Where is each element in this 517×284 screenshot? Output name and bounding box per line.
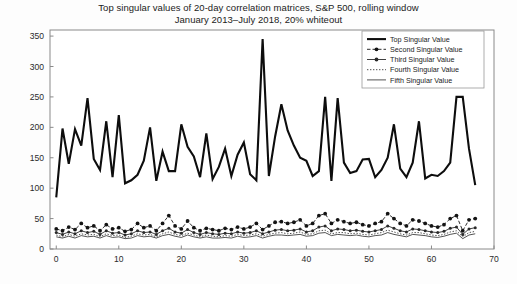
series-marker [129, 228, 133, 232]
y-tick-label: 50 [34, 214, 44, 224]
series-marker [142, 226, 146, 230]
series-marker [411, 218, 415, 222]
series-marker [117, 231, 120, 234]
series-marker [192, 226, 196, 230]
series-marker [442, 223, 446, 227]
series-marker [355, 229, 358, 232]
series-marker [461, 229, 465, 233]
series-marker [161, 222, 165, 226]
x-tick-label: 70 [489, 254, 499, 264]
series-marker [330, 229, 333, 232]
x-tick-label: 20 [177, 254, 187, 264]
series-marker [211, 232, 214, 235]
y-tick-label: 250 [30, 92, 45, 102]
series-marker [367, 230, 370, 233]
series-marker [199, 233, 202, 236]
chart-legend: Top Singular ValueSecond Singular ValueT… [362, 31, 484, 88]
series-marker [405, 230, 408, 233]
series-marker [361, 230, 364, 233]
series-marker [442, 230, 445, 233]
series-marker [292, 220, 296, 224]
series-marker [474, 226, 477, 229]
series-marker [392, 227, 395, 230]
series-marker [261, 228, 265, 232]
series-marker [324, 224, 327, 227]
series-marker [436, 231, 439, 234]
x-tick-label: 50 [364, 254, 374, 264]
series-marker [136, 229, 139, 232]
series-marker [267, 224, 271, 228]
series-marker [180, 232, 183, 235]
legend-entry-label: Third Singular Value [390, 55, 455, 64]
series-marker [449, 227, 452, 230]
series-marker [174, 230, 177, 233]
series-marker [380, 220, 384, 224]
series-marker [355, 220, 359, 224]
series-marker [123, 229, 127, 233]
series-marker [330, 222, 334, 226]
series-marker [417, 228, 420, 231]
y-tick-label: 150 [30, 153, 45, 163]
series-marker [167, 227, 170, 230]
series-marker [299, 227, 302, 230]
y-tick-label: 350 [30, 31, 45, 41]
series-marker [349, 229, 352, 232]
series-marker [361, 223, 365, 227]
series-marker [217, 233, 220, 236]
series-marker [67, 230, 70, 233]
series-marker [305, 230, 308, 233]
series-marker [273, 220, 277, 224]
series-marker [74, 232, 77, 235]
x-tick-label: 30 [239, 254, 249, 264]
series-marker [117, 226, 121, 230]
series-marker [149, 230, 152, 233]
series-marker [348, 222, 352, 226]
series-marker [336, 227, 339, 230]
series-marker [55, 231, 58, 234]
series-marker [99, 233, 102, 236]
series-marker [67, 225, 71, 229]
series-marker [54, 227, 58, 231]
series-marker [455, 214, 459, 218]
series-marker [411, 227, 414, 230]
series-marker [424, 229, 427, 232]
series-marker [374, 229, 377, 232]
series-marker [279, 220, 283, 224]
y-tick-label: 300 [30, 62, 45, 72]
series-marker [80, 229, 83, 232]
series-marker [205, 231, 208, 234]
series-marker [105, 229, 108, 232]
series-marker [317, 226, 320, 229]
series-marker [267, 230, 270, 233]
legend-entry-label: Fourth Singular Value [390, 65, 459, 74]
series-marker [367, 224, 371, 228]
series-marker [198, 229, 202, 233]
series-marker [405, 224, 409, 228]
series-marker [373, 222, 377, 226]
series-marker [398, 222, 402, 226]
series-marker [86, 231, 89, 234]
series-marker [229, 228, 233, 232]
series-marker [236, 225, 240, 229]
series-marker [223, 226, 227, 230]
series-marker [204, 226, 208, 230]
series-marker [292, 229, 295, 232]
series-marker [167, 214, 171, 218]
x-tick-label: 40 [302, 254, 312, 264]
series-marker [92, 224, 96, 228]
series-marker [242, 232, 245, 235]
x-tick-label: 0 [54, 254, 59, 264]
series-marker [161, 229, 164, 232]
series-marker [236, 230, 239, 233]
series-marker [461, 233, 464, 236]
series-marker [61, 233, 64, 236]
series-marker [79, 222, 83, 226]
series-marker [317, 214, 321, 218]
series-marker [179, 227, 183, 231]
series-marker [392, 217, 396, 221]
series-marker [254, 222, 258, 226]
legend-marker-sample [375, 58, 379, 62]
chart-figure: Top singular values of 20-day correlatio… [0, 0, 517, 284]
series-marker [92, 230, 95, 233]
series-marker [448, 217, 452, 221]
